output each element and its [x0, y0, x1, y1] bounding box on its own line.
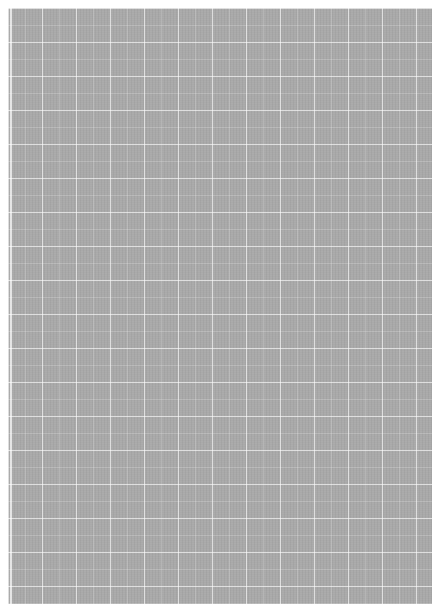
grid-paper-sheet	[8, 8, 432, 604]
sheet-left-edge-line	[10, 8, 12, 604]
